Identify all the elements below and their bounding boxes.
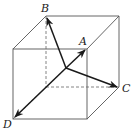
vector-oa bbox=[66, 50, 85, 68]
label-d: D bbox=[2, 118, 12, 131]
label-a: A bbox=[78, 35, 87, 48]
vectors bbox=[15, 18, 117, 117]
vector-ob bbox=[47, 18, 66, 68]
depth-edge-top-right bbox=[87, 16, 119, 49]
vector-od bbox=[15, 68, 66, 117]
vector-oc bbox=[66, 68, 117, 87]
depth-edge-bottom-right bbox=[87, 87, 119, 119]
cube-vector-diagram: A B C D bbox=[0, 0, 133, 131]
label-c: C bbox=[122, 82, 131, 95]
depth-edge-top-left bbox=[13, 16, 46, 49]
label-b: B bbox=[40, 2, 49, 15]
